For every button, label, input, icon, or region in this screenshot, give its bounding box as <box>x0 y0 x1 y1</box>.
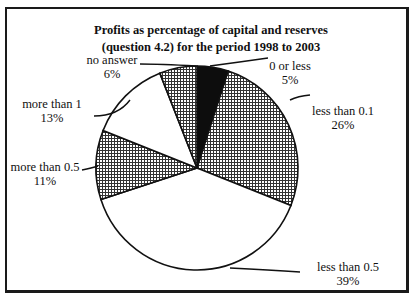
slice-label-1: less than 0.1 <box>312 104 374 118</box>
leader-line-5 <box>140 64 196 66</box>
slice-label-5-value: 6% <box>104 67 121 81</box>
chart-title-line-2: (question 4.2) for the period 1998 to 20… <box>102 40 321 54</box>
chart-title-line-1: Profits as percentage of capital and res… <box>94 23 328 37</box>
slice-label-4-value: 13% <box>41 111 64 125</box>
slice-label-3-value: 11% <box>34 174 56 188</box>
leader-line-0 <box>210 58 268 66</box>
slice-label-4: more than 1 <box>22 97 82 111</box>
leader-line-2 <box>230 268 300 272</box>
slice-label-0: 0 or less <box>269 59 311 73</box>
slice-label-3: more than 0.5 <box>10 160 79 174</box>
slice-label-1-value: 26% <box>332 118 355 132</box>
slice-label-5: no answer <box>86 53 138 67</box>
pie-slices <box>96 66 298 270</box>
leader-line-1 <box>290 95 310 100</box>
pie-chart: Profits as percentage of capital and res… <box>0 0 416 299</box>
slice-label-2: less than 0.5 <box>317 260 379 274</box>
slice-value-0: 5% <box>282 73 299 87</box>
slice-label-2-value: 39% <box>337 274 360 288</box>
